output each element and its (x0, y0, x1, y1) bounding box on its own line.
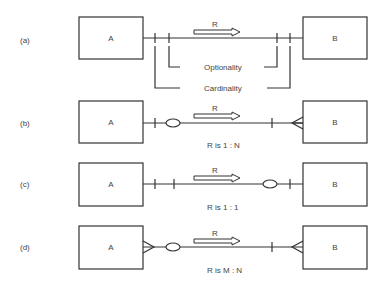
optionality-leader-left (169, 46, 180, 67)
entity-a-label: A (108, 118, 113, 127)
relationship-arrow-row-b (194, 112, 240, 120)
entity-a-label: A (108, 34, 113, 43)
relationship-label: R (212, 20, 218, 29)
row-label-a: (a) (20, 36, 30, 45)
entity-b-label: B (332, 180, 337, 189)
entity-a-label: A (108, 243, 113, 252)
row-label-c: (c) (20, 180, 29, 189)
relationship-label: R (212, 166, 218, 175)
entity-b-label: B (332, 118, 337, 127)
cardinality-label: Cardinality (204, 84, 242, 93)
relationship-label: R (212, 229, 218, 238)
optionality-label: Optionality (204, 63, 242, 72)
relationship-label: R (212, 104, 218, 113)
caption-row-d: R is M : N (207, 266, 242, 275)
entity-b-label: B (332, 243, 337, 252)
row-label-d: (d) (20, 243, 30, 252)
entity-a-label: A (108, 180, 113, 189)
row-label-b: (b) (20, 119, 30, 128)
optionality-leader-right (264, 46, 277, 67)
entity-b-label: B (332, 34, 337, 43)
relationship-arrow-row-a (194, 28, 240, 36)
relationship-arrow-row-d (194, 237, 240, 245)
caption-row-b: R is 1 : N (207, 141, 240, 150)
er-notation-diagram (0, 0, 387, 288)
caption-row-c: R is 1 : 1 (207, 203, 239, 212)
relationship-arrow-row-c (194, 174, 240, 182)
